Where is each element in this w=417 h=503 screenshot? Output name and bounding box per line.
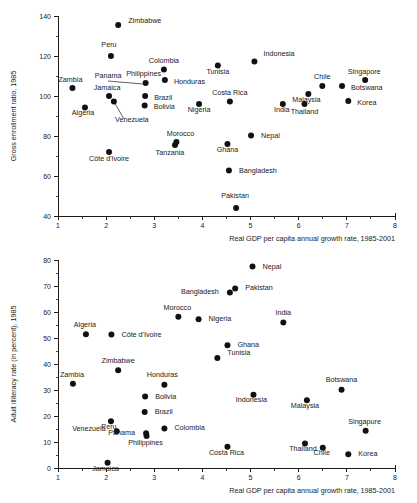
x-tick-label: 7 <box>345 222 349 229</box>
data-point[interactable] <box>233 205 239 211</box>
y-tick-label: 0 <box>47 465 51 472</box>
x-tick-label: 6 <box>297 222 301 229</box>
data-point[interactable] <box>111 99 117 105</box>
x-tick-label: 5 <box>249 222 253 229</box>
y-tick-label: 20 <box>43 413 51 420</box>
point-label: Zimbabwe <box>102 356 135 365</box>
y-tick-label: 80 <box>43 257 51 264</box>
x-tick-label: 1 <box>56 474 60 481</box>
point-label: Korea <box>358 449 377 458</box>
data-point[interactable] <box>161 67 167 73</box>
point-label: Costa Rica <box>209 448 244 457</box>
y-tick-label: 40 <box>43 213 51 220</box>
data-point[interactable] <box>248 132 254 138</box>
point-label: Pakistan <box>221 191 249 200</box>
point-label: Colombia <box>149 56 179 65</box>
data-point[interactable] <box>162 77 168 83</box>
point-label: Costa Rica <box>212 88 247 97</box>
x-tick-label: 4 <box>200 222 204 229</box>
data-point[interactable] <box>70 381 76 387</box>
point-label: Botswana <box>351 83 383 92</box>
x-tick-label: 2 <box>104 474 108 481</box>
chart-panel-bottom: 0102030405060708012345678Real GDP per ca… <box>0 252 417 503</box>
data-point[interactable] <box>339 83 345 89</box>
point-label: Pakistan <box>245 283 273 292</box>
data-point[interactable] <box>142 103 148 109</box>
point-label: Honduras <box>174 77 206 86</box>
point-label: Côte d'Ivoire <box>121 330 161 339</box>
bottom-scatter-plot: 0102030405060708012345678Real GDP per ca… <box>0 252 417 503</box>
data-point[interactable] <box>345 98 351 104</box>
point-label: Algeria <box>72 108 94 117</box>
point-label: Panama <box>108 428 135 437</box>
data-point[interactable] <box>227 290 233 296</box>
point-label: India <box>274 105 290 114</box>
y-tick-label: 60 <box>43 309 51 316</box>
data-point[interactable] <box>108 53 114 59</box>
point-label: Bolivia <box>155 392 176 401</box>
y-tick-label: 30 <box>43 387 51 394</box>
y-tick-label: 120 <box>39 53 51 60</box>
point-label: Chile <box>314 448 330 457</box>
data-point[interactable] <box>161 425 167 431</box>
data-point[interactable] <box>83 331 89 337</box>
data-point[interactable] <box>142 93 148 99</box>
y-tick-label: 100 <box>39 93 51 100</box>
point-label: Zambia <box>60 370 84 379</box>
point-label: Philippines <box>128 438 163 447</box>
data-point[interactable] <box>142 409 148 415</box>
data-point[interactable] <box>280 319 286 325</box>
data-point[interactable] <box>143 80 149 86</box>
data-point[interactable] <box>115 367 121 373</box>
point-label: Chile <box>314 72 330 81</box>
x-tick-label: 7 <box>345 474 349 481</box>
x-tick-label: 3 <box>152 222 156 229</box>
data-point[interactable] <box>232 286 238 292</box>
data-point[interactable] <box>142 394 148 400</box>
point-label: Thailand <box>291 107 319 116</box>
data-point[interactable] <box>108 332 114 338</box>
data-point[interactable] <box>226 168 232 174</box>
data-point[interactable] <box>249 264 255 270</box>
data-point[interactable] <box>106 93 112 99</box>
point-label: Singapure <box>348 417 381 426</box>
data-point[interactable] <box>345 451 351 457</box>
point-label: Malaysia <box>291 401 319 410</box>
point-label: Morocco <box>164 303 192 312</box>
data-point[interactable] <box>227 98 233 104</box>
data-point[interactable] <box>339 387 345 393</box>
point-label: Honduras <box>147 370 179 379</box>
point-label: Tanzania <box>156 148 185 157</box>
y-tick-label: 40 <box>43 361 51 368</box>
point-label: Jamaica <box>94 83 121 92</box>
point-label: Venezuela <box>72 424 106 433</box>
data-point[interactable] <box>115 22 121 28</box>
point-label: Brazil <box>155 407 173 416</box>
point-label: Botswana <box>326 375 358 384</box>
point-label: Nigeria <box>188 105 211 114</box>
y-tick-label: 70 <box>43 283 51 290</box>
y-tick-label: 10 <box>43 439 51 446</box>
data-point[interactable] <box>319 83 325 89</box>
data-point[interactable] <box>69 85 75 91</box>
x-tick-label: 1 <box>56 222 60 229</box>
point-label: Algeria <box>74 320 96 329</box>
data-point[interactable] <box>214 355 220 361</box>
data-point[interactable] <box>251 58 257 64</box>
y-tick-label: 50 <box>43 335 51 342</box>
point-label: Zimbabwe <box>128 16 161 25</box>
data-point[interactable] <box>175 314 181 320</box>
data-point[interactable] <box>363 428 369 434</box>
y-tick-label: 60 <box>43 173 51 180</box>
point-label: Nigeria <box>209 314 232 323</box>
x-tick-label: 4 <box>200 474 204 481</box>
data-point[interactable] <box>196 316 202 322</box>
point-label: Jamaica <box>92 464 119 473</box>
point-label: Bolivia <box>154 102 175 111</box>
x-tick-label: 2 <box>104 222 108 229</box>
x-tick-label: 6 <box>297 474 301 481</box>
data-point[interactable] <box>161 382 167 388</box>
x-tick-label: 8 <box>393 222 397 229</box>
y-tick-label: 80 <box>43 133 51 140</box>
point-label: Indonesia <box>263 49 294 58</box>
